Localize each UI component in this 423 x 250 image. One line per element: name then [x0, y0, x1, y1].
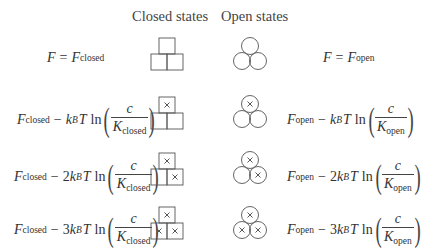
ligand-x-icon	[248, 158, 253, 163]
ligand-x-icon	[165, 213, 170, 218]
closed-state-1-bound	[151, 97, 183, 129]
formula-rparen: )	[414, 213, 420, 247]
ligand-x-icon	[256, 228, 261, 233]
ligand-x-icon	[240, 228, 245, 233]
open-state-2-bound	[234, 152, 267, 184]
formula-rparen: )	[414, 160, 420, 194]
ligand-x-icon	[248, 102, 253, 107]
closed-state-0-bound	[151, 38, 183, 70]
ligand-x-icon	[165, 103, 170, 108]
closed-state-2-bound	[151, 153, 183, 185]
formula-rparen: )	[407, 103, 413, 137]
closed-state-3-bound	[151, 207, 183, 239]
ligand-x-icon	[256, 173, 261, 178]
ligand-x-icon	[165, 159, 170, 164]
open-state-3-bound	[234, 207, 267, 239]
ligand-x-icon	[248, 213, 253, 218]
open-state-1-bound	[234, 96, 267, 128]
ligand-x-icon	[173, 229, 178, 234]
ligand-markers	[157, 102, 261, 234]
open-state-0-bound	[234, 38, 267, 70]
ligand-x-icon	[173, 175, 178, 180]
ligand-x-icon	[157, 229, 162, 234]
